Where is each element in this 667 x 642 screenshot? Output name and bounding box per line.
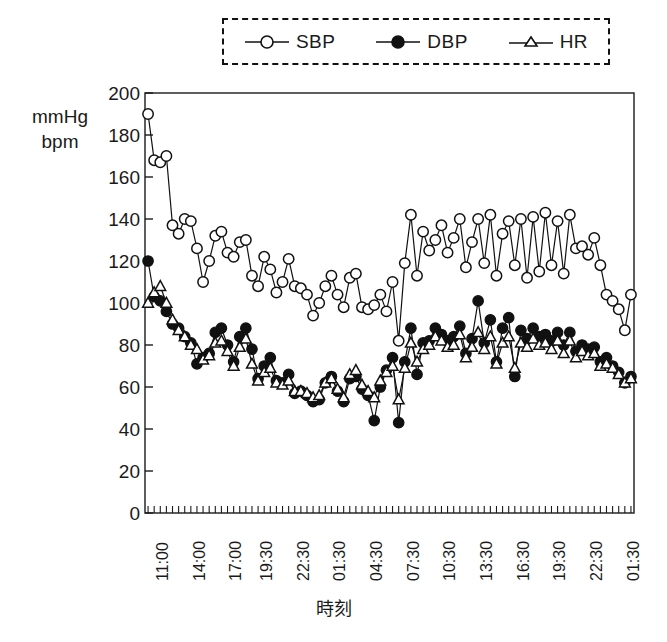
data-point	[552, 216, 562, 226]
data-point	[473, 214, 483, 224]
data-point	[509, 363, 520, 373]
data-point	[393, 394, 404, 404]
data-point	[516, 214, 526, 224]
data-point	[528, 212, 538, 222]
data-point	[485, 315, 495, 325]
data-point	[241, 235, 251, 245]
data-point	[393, 336, 403, 346]
data-point	[326, 271, 336, 281]
data-point	[314, 298, 324, 308]
data-point	[405, 337, 416, 347]
data-point	[540, 208, 550, 218]
data-point	[442, 247, 452, 257]
data-point	[461, 262, 471, 272]
data-point	[253, 281, 263, 291]
data-point	[522, 273, 532, 283]
data-point	[369, 300, 379, 310]
data-point	[406, 210, 416, 220]
data-point	[381, 306, 391, 316]
data-point	[467, 237, 477, 247]
data-point	[436, 220, 446, 230]
data-point	[228, 252, 238, 262]
data-point	[418, 226, 428, 236]
data-point	[559, 268, 569, 278]
data-point	[216, 226, 226, 236]
data-point	[161, 151, 171, 161]
data-point	[369, 415, 379, 425]
data-point	[448, 233, 458, 243]
data-point	[455, 214, 465, 224]
data-point	[620, 325, 630, 335]
data-point	[583, 250, 593, 260]
data-point	[216, 323, 226, 333]
data-point	[412, 271, 422, 281]
data-point	[198, 277, 208, 287]
data-point	[497, 229, 507, 239]
data-point	[510, 260, 520, 270]
data-point	[430, 235, 440, 245]
data-point	[503, 313, 513, 323]
data-point	[406, 323, 416, 333]
x-axis-title: 時刻	[0, 594, 667, 620]
data-point	[589, 233, 599, 243]
data-point	[473, 296, 483, 306]
data-point	[320, 281, 330, 291]
data-point	[186, 216, 196, 226]
data-point	[546, 260, 556, 270]
data-point	[308, 310, 318, 320]
data-point	[565, 210, 575, 220]
data-point	[283, 254, 293, 264]
data-point	[204, 256, 214, 266]
data-point	[375, 289, 385, 299]
data-point	[155, 281, 166, 291]
data-point	[412, 369, 422, 379]
data-point	[192, 243, 202, 253]
data-point	[332, 289, 342, 299]
data-point	[626, 289, 636, 299]
data-point	[302, 289, 312, 299]
data-point	[271, 287, 281, 297]
data-point	[485, 210, 495, 220]
data-point	[143, 109, 153, 119]
chart-figure: SBP DBP HR mmHg bpm 02040608010012014016…	[0, 0, 667, 642]
data-point	[387, 277, 397, 287]
data-point	[479, 258, 489, 268]
data-point	[351, 268, 361, 278]
data-point	[265, 264, 275, 274]
data-point	[247, 271, 257, 281]
data-point	[424, 245, 434, 255]
data-point	[491, 271, 501, 281]
data-point	[393, 418, 403, 428]
data-point	[247, 358, 258, 368]
data-point	[497, 323, 507, 333]
data-point	[400, 258, 410, 268]
data-point	[503, 216, 513, 226]
plot-frame	[145, 93, 634, 513]
data-point	[534, 266, 544, 276]
data-point	[338, 302, 348, 312]
data-point	[259, 252, 269, 262]
plot-area	[0, 0, 667, 642]
data-point	[277, 277, 287, 287]
data-point	[143, 256, 153, 266]
data-point	[614, 304, 624, 314]
data-point	[173, 229, 183, 239]
data-point	[595, 260, 605, 270]
data-point	[350, 365, 361, 375]
series-sbp	[143, 109, 636, 346]
